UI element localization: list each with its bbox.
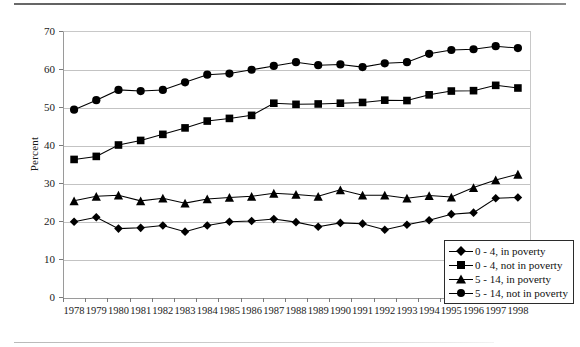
data-point-diamond (114, 224, 123, 233)
data-point-triangle (491, 176, 500, 185)
data-point-triangle (336, 185, 345, 194)
data-point-diamond (92, 213, 101, 222)
data-point-diamond (136, 224, 145, 233)
data-point-triangle (469, 183, 478, 192)
data-point-square (314, 100, 322, 108)
data-point-circle (181, 78, 189, 86)
data-point-circle (225, 69, 233, 77)
legend-item-label: 0 - 4, in poverty (474, 246, 546, 257)
data-point-square (270, 99, 278, 107)
legend-item-label: 0 - 4, not in poverty (474, 260, 562, 271)
data-point-diamond (469, 208, 478, 217)
data-point-diamond (314, 222, 323, 231)
legend-key-marker (457, 261, 465, 269)
data-point-circle (492, 42, 500, 50)
data-point-circle (292, 58, 300, 66)
data-point-circle (381, 59, 389, 67)
legend-item[interactable]: 5 - 14, not in poverty (448, 286, 568, 300)
data-point-diamond (270, 215, 279, 224)
data-point-square (226, 115, 234, 123)
line-chart: Percent 010203040506070 1978197919801981… (0, 0, 580, 347)
data-point-circle (270, 62, 278, 70)
data-point-square (70, 156, 78, 164)
data-point-diamond (292, 218, 301, 227)
series-line (74, 85, 518, 159)
data-point-diamond (336, 219, 345, 228)
data-point-square (115, 141, 123, 149)
data-point-diamond (514, 193, 523, 202)
data-point-triangle (180, 199, 189, 208)
data-point-circle (469, 45, 477, 53)
data-point-square (381, 96, 389, 104)
series-3 (69, 170, 522, 208)
legend-item[interactable]: 5 - 14, in poverty (448, 272, 568, 286)
data-point-square (359, 99, 367, 107)
legend-marker-circle-icon (448, 287, 474, 300)
data-point-square (514, 84, 522, 92)
legend-item[interactable]: 0 - 4, in poverty (448, 244, 568, 258)
data-point-square (203, 117, 211, 125)
data-point-circle (425, 50, 433, 58)
data-point-diamond (247, 217, 256, 226)
data-point-diamond (203, 221, 212, 230)
data-point-square (337, 99, 345, 107)
data-point-square (292, 101, 300, 109)
chart-legend: 0 - 4, in poverty0 - 4, not in poverty5 … (444, 240, 574, 304)
data-point-square (448, 87, 456, 95)
data-point-circle (403, 58, 411, 66)
legend-key-marker (456, 246, 466, 256)
legend-key-marker (456, 275, 466, 284)
data-point-square (248, 112, 256, 120)
data-point-circle (114, 86, 122, 94)
data-point-circle (248, 66, 256, 74)
data-point-diamond (181, 227, 190, 236)
data-point-diamond (403, 221, 412, 230)
data-point-circle (514, 44, 522, 52)
data-point-square (92, 153, 100, 161)
legend-marker-diamond-icon (448, 245, 474, 258)
legend-item[interactable]: 0 - 4, not in poverty (448, 258, 568, 272)
legend-item-label: 5 - 14, in poverty (474, 274, 551, 285)
page-canvas: Percent 010203040506070 1978197919801981… (0, 0, 580, 347)
legend-item-label: 5 - 14, not in poverty (474, 288, 568, 299)
data-point-triangle (513, 170, 522, 179)
data-point-diamond (491, 194, 500, 203)
data-point-diamond (358, 219, 367, 228)
data-point-square (403, 97, 411, 105)
data-point-triangle (69, 196, 78, 205)
data-point-circle (314, 61, 322, 69)
data-point-diamond (70, 217, 79, 226)
data-point-square (159, 131, 167, 139)
data-point-circle (70, 106, 78, 114)
data-point-diamond (425, 216, 434, 225)
data-point-diamond (447, 210, 456, 219)
data-point-square (470, 87, 478, 95)
legend-marker-triangle-icon (448, 273, 474, 286)
data-point-square (492, 82, 500, 90)
data-point-circle (358, 63, 366, 71)
legend-key-marker (457, 289, 465, 297)
data-point-circle (203, 71, 211, 79)
data-point-diamond (380, 225, 389, 234)
data-point-diamond (225, 217, 234, 226)
data-point-square (425, 91, 433, 99)
series-line (74, 46, 518, 109)
data-point-circle (92, 96, 100, 104)
data-point-circle (137, 87, 145, 95)
data-point-circle (447, 46, 455, 54)
data-point-square (137, 137, 145, 145)
data-point-square (181, 124, 189, 132)
legend-marker-square-icon (448, 259, 474, 272)
data-point-diamond (159, 221, 168, 230)
data-point-circle (159, 86, 167, 94)
data-point-circle (336, 60, 344, 68)
